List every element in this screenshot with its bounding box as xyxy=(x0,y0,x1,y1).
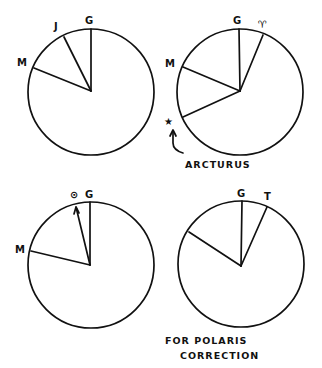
spoke-unlabeled xyxy=(189,232,241,266)
label-g: G xyxy=(85,189,94,200)
panel-bottom-right: G T FOR POLARIS CORRECTION xyxy=(165,188,304,361)
star-icon: ★ xyxy=(164,116,173,127)
caption-line-2: CORRECTION xyxy=(180,350,259,361)
label-m: M xyxy=(165,58,175,69)
label-g: G xyxy=(85,15,94,26)
label-m: M xyxy=(17,57,27,68)
spoke-arcturus xyxy=(183,91,240,117)
spoke-sun xyxy=(76,207,90,265)
label-m: M xyxy=(15,244,25,255)
panel-top-right: G ♈ M ★ ARCTURUS xyxy=(164,15,303,170)
spoke-g xyxy=(241,201,242,266)
label-g: G xyxy=(237,188,246,199)
spoke-m xyxy=(183,67,240,91)
label-g: G xyxy=(233,15,242,26)
diagram-stage: G J M G ♈ M ★ ARCTURUS ⊙ xyxy=(0,0,322,368)
sun-icon: ⊙ xyxy=(70,189,79,200)
pointer-arrow xyxy=(173,132,183,153)
diagram-canvas: G J M G ♈ M ★ ARCTURUS ⊙ xyxy=(0,0,322,368)
spoke-j xyxy=(64,37,91,91)
spoke-m xyxy=(31,251,90,265)
spoke-g xyxy=(239,29,240,91)
label-aries: T xyxy=(264,191,271,202)
spoke-aries xyxy=(241,207,267,266)
spoke-aries xyxy=(240,35,263,91)
label-j: J xyxy=(53,21,58,32)
arcturus-label: ARCTURUS xyxy=(185,159,251,170)
spoke-m xyxy=(34,68,91,91)
caption-line-1: FOR POLARIS xyxy=(165,335,247,346)
panel-bottom-left: ⊙ G M xyxy=(15,189,154,328)
hour-circle xyxy=(28,202,154,328)
label-aries: ♈ xyxy=(258,19,267,30)
panel-top-left: G J M xyxy=(17,15,154,155)
